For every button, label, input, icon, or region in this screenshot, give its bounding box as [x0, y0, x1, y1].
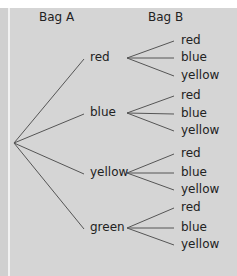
bag-a-outcome-yellow: yellow: [90, 165, 128, 179]
bag-b-outcome-yellow: yellow: [181, 123, 219, 137]
branch-line: [127, 113, 174, 114]
branch-line: [127, 41, 174, 58]
bag-b-outcome-blue: blue: [181, 165, 207, 179]
bag-a-outcome-green: green: [90, 220, 125, 234]
bag-b-outcome-red: red: [181, 88, 201, 102]
branch-line: [127, 96, 174, 113]
branch-line: [14, 114, 84, 143]
branch-line: [14, 59, 84, 143]
bag-b-outcome-blue: blue: [181, 106, 207, 120]
bag-b-outcome-blue: blue: [181, 50, 207, 64]
bag-b-outcome-yellow: yellow: [181, 182, 219, 196]
header-bag-b: Bag B: [148, 10, 183, 24]
branch-line: [127, 58, 174, 76]
branch-line: [14, 143, 84, 229]
bag-b-outcome-red: red: [181, 33, 201, 47]
bag-b-outcome-red: red: [181, 200, 201, 214]
branch-line: [127, 113, 174, 131]
bag-b-outcome-red: red: [181, 146, 201, 160]
bag-b-outcome-yellow: yellow: [181, 237, 219, 251]
bag-b-outcome-blue: blue: [181, 220, 207, 234]
branch-line: [127, 154, 174, 173]
bag-a-outcome-red: red: [90, 50, 110, 64]
branch-line: [127, 173, 174, 190]
bag-a-outcome-blue: blue: [90, 105, 116, 119]
header-bag-a: Bag A: [39, 10, 74, 24]
branch-line: [127, 228, 174, 245]
branch-line: [127, 208, 174, 228]
bag-b-outcome-yellow: yellow: [181, 68, 219, 82]
tree-lines: [0, 0, 237, 276]
branch-line: [14, 143, 84, 174]
